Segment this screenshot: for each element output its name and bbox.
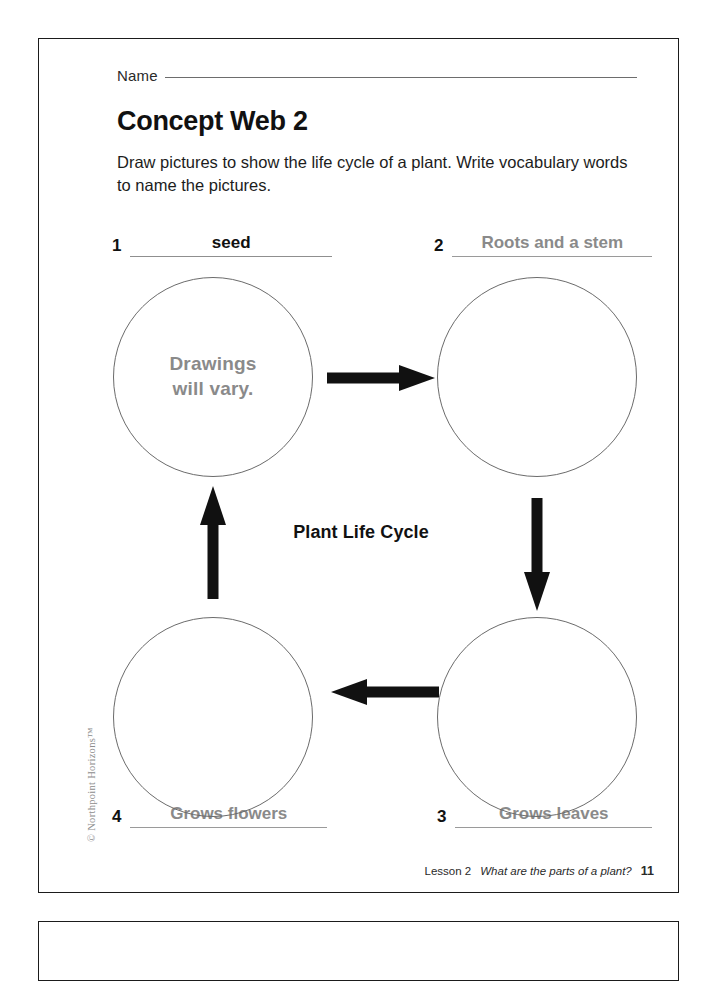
page-title: Concept Web 2 — [117, 106, 308, 137]
worksheet-page: Name Concept Web 2 Draw pictures to show… — [38, 38, 679, 893]
name-write-in-line[interactable] — [165, 77, 637, 78]
footer-question-text: What are the parts of a plant? — [480, 865, 632, 877]
answer-slot-2: 2 Roots and a stem — [434, 233, 652, 257]
answer-slot-3-value[interactable]: Grows leaves — [455, 804, 652, 828]
answer-slot-1-value[interactable]: seed — [130, 233, 332, 257]
cycle-circle-1[interactable]: Drawings will vary. — [113, 277, 313, 477]
cycle-circle-3[interactable] — [437, 617, 637, 817]
answer-slot-4: 4 Grows flowers — [112, 804, 327, 828]
footer-lesson-label: Lesson 2 — [425, 865, 472, 877]
cycle-circle-4[interactable] — [113, 617, 313, 817]
arrow-right-top — [323, 361, 441, 395]
diagram-center-label: Plant Life Cycle — [261, 522, 461, 543]
answer-slot-4-value[interactable]: Grows flowers — [130, 804, 327, 828]
name-label: Name — [117, 67, 158, 84]
drawings-will-vary-line-1: Drawings — [169, 352, 256, 377]
answer-slot-1: 1 seed — [112, 233, 332, 257]
drawings-will-vary-note: Drawings will vary. — [169, 352, 256, 401]
footer-page-number: 11 — [641, 864, 654, 878]
arrow-left-bottom — [325, 675, 443, 709]
answer-slot-2-number: 2 — [434, 237, 443, 257]
answer-slot-3: 3 Grows leaves — [437, 804, 652, 828]
page-footer: Lesson 2 What are the parts of a plant? … — [425, 864, 654, 878]
cycle-circle-2[interactable] — [437, 277, 637, 477]
next-worksheet-page-edge — [38, 921, 679, 981]
instructions-text: Draw pictures to show the life cycle of … — [117, 151, 637, 198]
arrow-down-right — [520, 494, 554, 616]
answer-slot-1-number: 1 — [112, 237, 121, 257]
copyright-notice: © Northpoint Horizons™ — [86, 727, 97, 842]
answer-slot-3-number: 3 — [437, 808, 446, 828]
name-field-row: Name — [117, 67, 637, 84]
answer-slot-4-number: 4 — [112, 808, 121, 828]
answer-slot-2-value[interactable]: Roots and a stem — [452, 233, 652, 257]
drawings-will-vary-line-2: will vary. — [169, 377, 256, 402]
arrow-up-left — [196, 482, 230, 604]
